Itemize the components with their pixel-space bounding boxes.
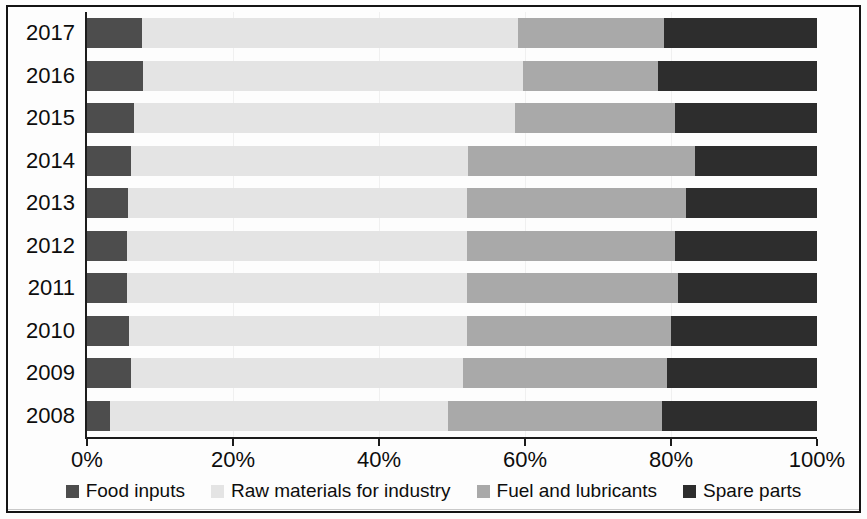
y-axis-category-label: 2008 — [26, 401, 75, 431]
bar-segment — [515, 103, 676, 133]
x-axis-tick — [524, 439, 526, 446]
x-axis-tick — [378, 439, 380, 446]
plot-area: 2017201620152014201320122011201020092008 — [87, 12, 817, 437]
bar-segment — [468, 146, 695, 176]
bar-segment — [87, 358, 131, 388]
legend-swatch-icon — [211, 485, 224, 498]
y-axis-category-label: 2011 — [28, 273, 75, 303]
bar-segment — [87, 103, 134, 133]
x-axis-tick-label: 60% — [503, 447, 547, 473]
legend-swatch-icon — [683, 485, 696, 498]
legend-item: Raw materials for industry — [211, 480, 451, 502]
bar-segment — [134, 103, 515, 133]
x-axis-tick — [86, 439, 88, 446]
y-axis-category-label: 2017 — [26, 18, 75, 48]
stacked-bar — [87, 188, 817, 218]
x-axis-tick-label: 20% — [211, 447, 255, 473]
stacked-bar — [87, 401, 817, 431]
bar-segment — [678, 273, 817, 303]
x-axis-tick-label: 0% — [71, 447, 103, 473]
x-axis-tick-label: 100% — [789, 447, 845, 473]
stacked-bar — [87, 358, 817, 388]
bar-segment — [131, 358, 463, 388]
bar-segment — [686, 188, 817, 218]
bar-segment — [675, 103, 817, 133]
bar-segment — [467, 316, 671, 346]
y-axis-category-label: 2013 — [26, 188, 75, 218]
chart-figure: 0%20%40%60%80%100% 201720162015201420132… — [0, 0, 867, 519]
y-axis-category-label: 2014 — [26, 146, 75, 176]
bar-segment — [87, 273, 127, 303]
x-axis-tick — [670, 439, 672, 446]
bar-segment — [127, 231, 466, 261]
bar-segment — [518, 18, 664, 48]
bar-segment — [667, 358, 817, 388]
legend-divider — [8, 509, 859, 510]
stacked-bar — [87, 103, 817, 133]
bar-segment — [87, 61, 143, 91]
x-axis-line — [85, 437, 817, 439]
legend-label: Raw materials for industry — [231, 480, 451, 502]
legend-label: Fuel and lubricants — [497, 480, 658, 502]
bar-row: 2010 — [87, 310, 817, 353]
bar-segment — [129, 316, 466, 346]
y-axis-category-label: 2009 — [26, 358, 75, 388]
bar-segment — [110, 401, 448, 431]
bar-segment — [127, 273, 466, 303]
legend-item: Food inputs — [66, 480, 185, 502]
y-axis-category-label: 2016 — [26, 61, 75, 91]
bar-segment — [142, 18, 518, 48]
bar-row: 2017 — [87, 12, 817, 55]
legend-label: Food inputs — [86, 480, 185, 502]
y-axis-category-label: 2010 — [26, 316, 75, 346]
bar-segment — [675, 231, 817, 261]
bar-row: 2015 — [87, 97, 817, 140]
bar-segment — [662, 401, 817, 431]
bar-segment — [467, 273, 679, 303]
bar-segment — [87, 316, 129, 346]
x-axis-tick — [232, 439, 234, 446]
x-axis-tick-label: 40% — [357, 447, 401, 473]
bar-segment — [87, 231, 127, 261]
bar-segment — [658, 61, 817, 91]
legend-swatch-icon — [477, 485, 490, 498]
stacked-bar — [87, 316, 817, 346]
bar-segment — [664, 18, 817, 48]
bar-row: 2009 — [87, 352, 817, 395]
bar-segment — [448, 401, 662, 431]
legend-label: Spare parts — [703, 480, 801, 502]
bar-segment — [131, 146, 468, 176]
legend-swatch-icon — [66, 485, 79, 498]
stacked-bar — [87, 231, 817, 261]
stacked-bar — [87, 61, 817, 91]
y-axis-category-label: 2012 — [26, 231, 75, 261]
bar-segment — [128, 188, 467, 218]
bar-segment — [87, 146, 131, 176]
bar-segment — [523, 61, 658, 91]
stacked-bar — [87, 146, 817, 176]
legend-item: Spare parts — [683, 480, 801, 502]
bar-row: 2014 — [87, 140, 817, 183]
chart-legend: Food inputsRaw materials for industryFue… — [6, 476, 861, 506]
bar-row: 2012 — [87, 225, 817, 268]
bar-segment — [671, 316, 817, 346]
bar-segment — [463, 358, 667, 388]
x-axis-tick-label: 80% — [649, 447, 693, 473]
bar-row: 2013 — [87, 182, 817, 225]
bar-segment — [467, 188, 686, 218]
stacked-bar — [87, 273, 817, 303]
x-axis-tick — [816, 439, 818, 446]
y-axis-category-label: 2015 — [26, 103, 75, 133]
bar-row: 2011 — [87, 267, 817, 310]
bar-segment — [87, 188, 128, 218]
stacked-bar — [87, 18, 817, 48]
bar-segment — [87, 401, 110, 431]
bar-row: 2016 — [87, 55, 817, 98]
bar-segment — [467, 231, 675, 261]
legend-item: Fuel and lubricants — [477, 480, 658, 502]
bar-row: 2008 — [87, 395, 817, 438]
bar-segment — [695, 146, 817, 176]
bar-segment — [87, 18, 142, 48]
bar-segment — [143, 61, 523, 91]
